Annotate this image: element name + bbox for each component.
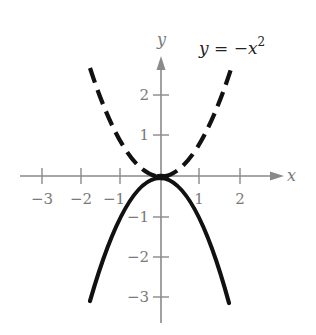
equation-annotation: y = −x2 [198,35,265,58]
graph-figure: −3 −2 −1 1 2 2 1 −1 −2 −3 x y y = −x2 [0,0,316,335]
y-tick-label: 1 [139,126,149,144]
equation-text: y = −x2 [198,35,265,58]
x-tick-label: 2 [235,190,245,208]
equation-exponent: 2 [258,35,266,49]
y-tick-label: −3 [127,288,149,306]
x-tick-label: −1 [103,190,125,208]
x-tick-label: −3 [31,190,53,208]
y-axis-label: y [156,30,167,49]
y-axis-arrow-icon [157,56,166,70]
y-tick-label: −1 [127,208,149,226]
x-axis-label: x [287,166,296,185]
x-axis-arrow-icon [270,172,284,181]
y-tick-label: −2 [127,248,149,266]
plot-svg: −3 −2 −1 1 2 2 1 −1 −2 −3 x y y = −x2 [0,0,316,335]
x-tick-label: −2 [70,190,92,208]
y-axis [153,56,169,323]
vertex-marker [153,174,169,180]
y-tick-label: 2 [139,86,149,104]
x-tick-label: 1 [194,190,204,208]
